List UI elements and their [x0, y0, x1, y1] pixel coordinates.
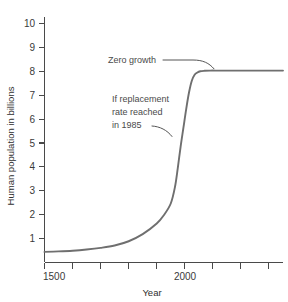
y-tick-label-7: 7 [29, 90, 35, 101]
annotation-replacement-rate-line3: in 1985 [112, 120, 142, 130]
y-axis-title: Human population in billions [5, 86, 16, 205]
annotation-zero-growth: Zero growth [108, 55, 214, 69]
y-tick-label-2: 2 [29, 209, 35, 220]
y-tick-label-10: 10 [24, 18, 36, 29]
y-axis-ticks: 10 9 8 7 6 5 4 3 2 1 [24, 18, 45, 244]
x-tick-label-2000: 2000 [174, 271, 197, 282]
annotation-zero-growth-leader [163, 60, 214, 69]
annotation-replacement-rate: If replacement rate reached in 1985 [112, 94, 172, 137]
y-tick-label-9: 9 [29, 42, 35, 53]
y-tick-label-8: 8 [29, 66, 35, 77]
chart-canvas: 10 9 8 7 6 5 4 3 2 1 [0, 0, 288, 302]
population-chart-figure: 10 9 8 7 6 5 4 3 2 1 [0, 0, 288, 302]
x-tick-label-1500: 1500 [43, 271, 66, 282]
x-axis-ticks: 1500 2000 [43, 263, 269, 283]
y-tick-label-4: 4 [29, 161, 35, 172]
y-tick-label-5: 5 [29, 138, 35, 149]
axes-group [45, 17, 284, 263]
x-axis-title: Year [142, 287, 161, 298]
y-tick-label-1: 1 [29, 233, 35, 244]
annotation-zero-growth-label: Zero growth [108, 55, 156, 65]
annotation-replacement-rate-line2: rate reached [112, 107, 163, 117]
annotation-replacement-rate-leader [152, 126, 172, 137]
annotation-replacement-rate-line1: If replacement [112, 94, 170, 104]
y-tick-label-3: 3 [29, 185, 35, 196]
y-tick-label-6: 6 [29, 114, 35, 125]
